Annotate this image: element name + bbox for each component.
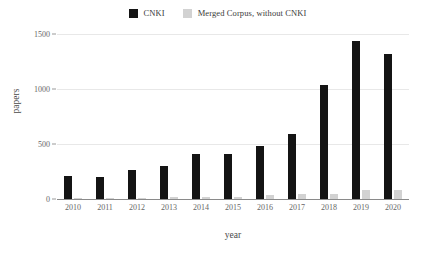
x-axis-tick-label: 2014 [185,203,217,212]
bar-group [153,34,185,199]
bar-group [377,34,409,199]
y-axis-tick-mark [52,199,56,200]
y-axis-tick-label: 1500 [34,30,50,39]
bar-group [121,34,153,199]
bar-cnki [128,170,136,199]
bar-cnki [256,146,264,199]
legend-label-merged-corpus: Merged Corpus, without CNKI [198,8,307,18]
y-axis-tick-mark [52,144,56,145]
bar-cnki [192,154,200,199]
bar-cnki [384,54,392,199]
legend-swatch-merged-corpus [183,9,192,18]
x-axis-tick-label: 2013 [153,203,185,212]
x-axis-tick-label: 2017 [281,203,313,212]
x-axis-tick-label: 2020 [377,203,409,212]
bar-group [249,34,281,199]
bar-cnki [64,176,72,199]
legend-label-cnki: CNKI [144,8,165,18]
y-axis-tick-label: 0 [46,195,50,204]
bar-cnki [224,154,232,199]
bar-group [185,34,217,199]
y-axis-tick-mark [52,34,56,35]
x-axis-tick-label: 2012 [121,203,153,212]
y-axis-title: papers [11,89,21,114]
bar-group [217,34,249,199]
y-axis-tick-mark [52,89,56,90]
y-axis-tick-label: 1000 [34,85,50,94]
bar-groups [57,34,409,199]
x-axis-tick-label: 2010 [57,203,89,212]
bar-cnki [96,177,104,199]
bar-group [57,34,89,199]
x-axis-line [57,199,409,200]
bar-cnki [352,41,360,199]
legend-entry-cnki: CNKI [129,8,165,18]
bar-group [313,34,345,199]
bar-merged-corpus [394,190,402,199]
x-axis-title: year [57,230,409,240]
chart-legend: CNKI Merged Corpus, without CNKI [0,8,435,18]
x-axis-tick-label: 2016 [249,203,281,212]
bar-group [281,34,313,199]
bar-cnki [288,134,296,199]
bar-merged-corpus [362,190,370,199]
bar-group [345,34,377,199]
legend-swatch-cnki [129,9,138,18]
x-axis-tick-label: 2019 [345,203,377,212]
bar-group [89,34,121,199]
x-axis-tick-labels: 2010201120122013201420152016201720182019… [57,203,409,212]
y-axis-tick-label: 500 [38,140,50,149]
bar-cnki [320,85,328,199]
legend-entry-merged-corpus: Merged Corpus, without CNKI [183,8,307,18]
bar-chart: CNKI Merged Corpus, without CNKI papers … [0,0,435,255]
x-axis-tick-label: 2018 [313,203,345,212]
plot-area: 050010001500 [57,34,409,199]
bar-cnki [160,166,168,199]
x-axis-tick-label: 2011 [89,203,121,212]
x-axis-tick-label: 2015 [217,203,249,212]
